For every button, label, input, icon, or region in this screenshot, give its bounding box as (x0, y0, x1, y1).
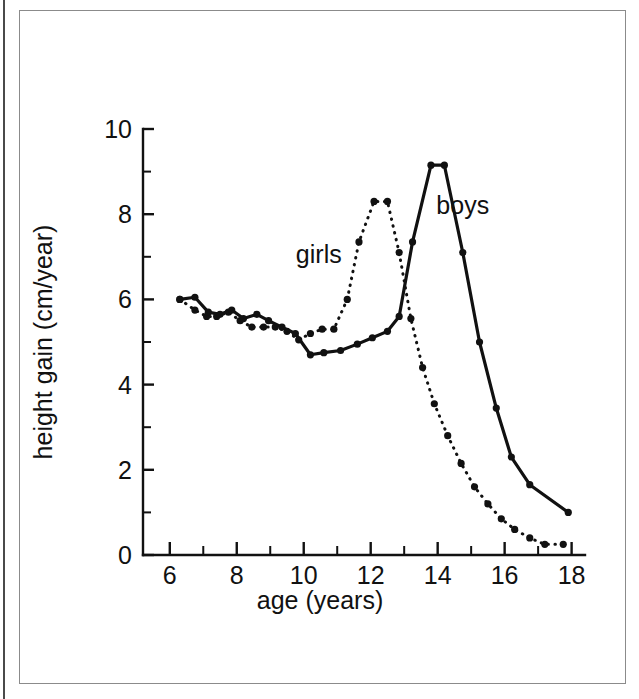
data-point-boys (396, 313, 403, 320)
data-point-girls (370, 198, 377, 205)
data-point-boys (427, 162, 434, 169)
data-point-girls (319, 326, 326, 333)
data-point-boys (240, 315, 247, 322)
data-point-girls (407, 315, 414, 322)
data-point-boys (191, 294, 198, 301)
y-tick-label: 4 (118, 371, 132, 399)
data-point-girls (307, 330, 314, 337)
data-point-girls (396, 249, 403, 256)
data-point-boys (337, 347, 344, 354)
data-point-girls (260, 323, 267, 330)
data-point-girls (560, 541, 567, 548)
data-point-girls (431, 400, 438, 407)
data-point-boys (441, 162, 448, 169)
data-point-girls (541, 541, 548, 548)
series-label-boys: boys (436, 191, 489, 219)
x-tick-label: 12 (357, 561, 385, 589)
data-point-girls (444, 432, 451, 439)
data-point-boys (265, 317, 272, 324)
x-tick-label: 10 (290, 561, 318, 589)
data-point-boys (409, 238, 416, 245)
x-axis-title: age (years) (257, 586, 383, 614)
data-point-boys (205, 309, 212, 316)
data-point-girls (511, 526, 518, 533)
y-tick-label: 2 (118, 456, 132, 484)
data-point-boys (216, 311, 223, 318)
data-point-boys (176, 296, 183, 303)
y-axis-title: height gain (cm/year) (29, 225, 57, 460)
data-point-boys (476, 338, 483, 345)
y-tick-label: 10 (104, 115, 132, 143)
growth-velocity-chart: 0246810 681012141618 age (years) height … (0, 0, 639, 699)
data-point-boys (307, 351, 314, 358)
data-point-boys (278, 323, 285, 330)
series-girls (176, 198, 567, 548)
y-axis-tick-labels: 0246810 (104, 115, 132, 569)
data-point-girls (344, 296, 351, 303)
x-tick-label: 16 (491, 561, 519, 589)
data-point-girls (458, 460, 465, 467)
data-point-girls (355, 238, 362, 245)
y-tick-label: 0 (118, 541, 132, 569)
data-point-girls (191, 306, 198, 313)
x-axis-tick-labels: 681012141618 (163, 561, 586, 589)
data-point-girls (471, 483, 478, 490)
data-point-boys (565, 509, 572, 516)
data-point-boys (493, 404, 500, 411)
series-label-girls: girls (296, 240, 342, 268)
y-tick-label: 8 (118, 200, 132, 228)
x-tick-label: 14 (424, 561, 452, 589)
data-point-boys (526, 481, 533, 488)
data-point-boys (354, 341, 361, 348)
data-point-boys (253, 311, 260, 318)
y-axis: 0246810 (104, 115, 154, 569)
series-line-girls (180, 201, 563, 544)
x-axis: 681012141618 (143, 542, 586, 589)
y-tick-label: 6 (118, 285, 132, 313)
data-point-boys (292, 330, 299, 337)
data-point-girls (526, 534, 533, 541)
data-point-girls (498, 515, 505, 522)
data-point-boys (508, 453, 515, 460)
x-tick-label: 6 (163, 561, 177, 589)
series-boys (176, 162, 572, 516)
x-tick-label: 8 (230, 561, 244, 589)
data-point-boys (369, 334, 376, 341)
data-point-girls (384, 198, 391, 205)
x-tick-label: 18 (558, 561, 586, 589)
series-layer (176, 162, 572, 548)
data-point-boys (459, 249, 466, 256)
data-point-girls (248, 323, 255, 330)
data-point-boys (320, 349, 327, 356)
data-point-girls (330, 326, 337, 333)
data-point-girls (419, 364, 426, 371)
series-annotations: girlsboys (296, 191, 489, 268)
figure-root: 0246810 681012141618 age (years) height … (0, 0, 639, 699)
data-point-girls (484, 500, 491, 507)
x-axis-major-ticks (170, 542, 572, 555)
data-point-boys (228, 306, 235, 313)
data-point-boys (384, 328, 391, 335)
